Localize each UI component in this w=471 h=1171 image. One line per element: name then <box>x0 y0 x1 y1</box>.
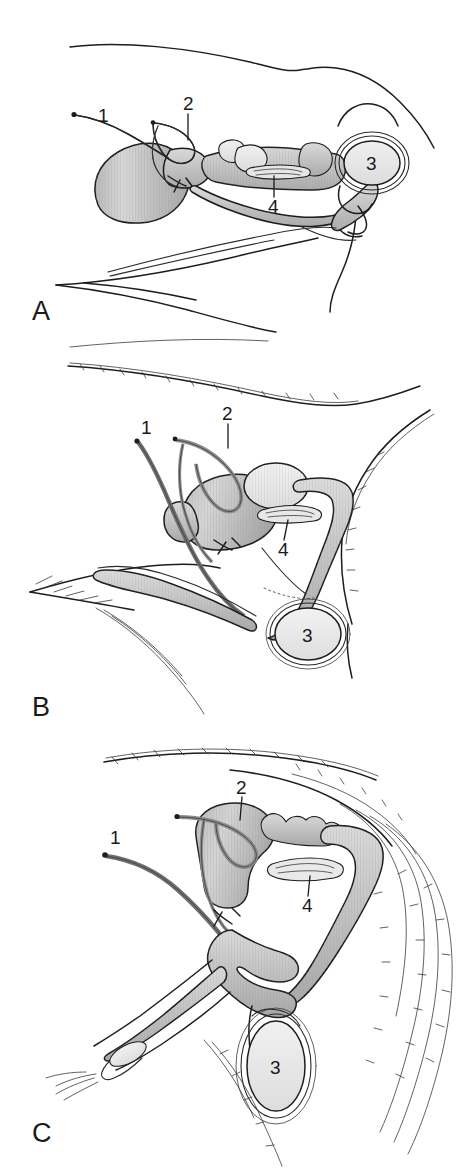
anatomy-figure: 1 2 3 4 A <box>0 0 471 1171</box>
label-number-3: 3 <box>270 1057 281 1078</box>
label-number-1: 1 <box>110 827 121 848</box>
panel-b-bull: 1 2 3 4 <box>0 352 471 730</box>
panel-c-stallion: 1 2 3 4 C <box>0 724 471 1171</box>
label-number-4: 4 <box>268 196 279 217</box>
label-number-2: 2 <box>222 403 233 424</box>
label-number-4: 4 <box>278 539 289 560</box>
label-number-3: 3 <box>366 153 377 174</box>
panel-letter-c: C <box>32 1118 52 1148</box>
label-number-1: 1 <box>98 105 109 126</box>
label-number-1: 1 <box>141 417 152 438</box>
panel-a-boar: 1 2 3 4 A <box>0 0 471 352</box>
label-number-2: 2 <box>183 93 194 114</box>
label-number-4: 4 <box>302 895 313 916</box>
label-number-3: 3 <box>302 625 313 646</box>
panel-letter-a: A <box>32 296 50 326</box>
label-number-2: 2 <box>236 777 247 798</box>
